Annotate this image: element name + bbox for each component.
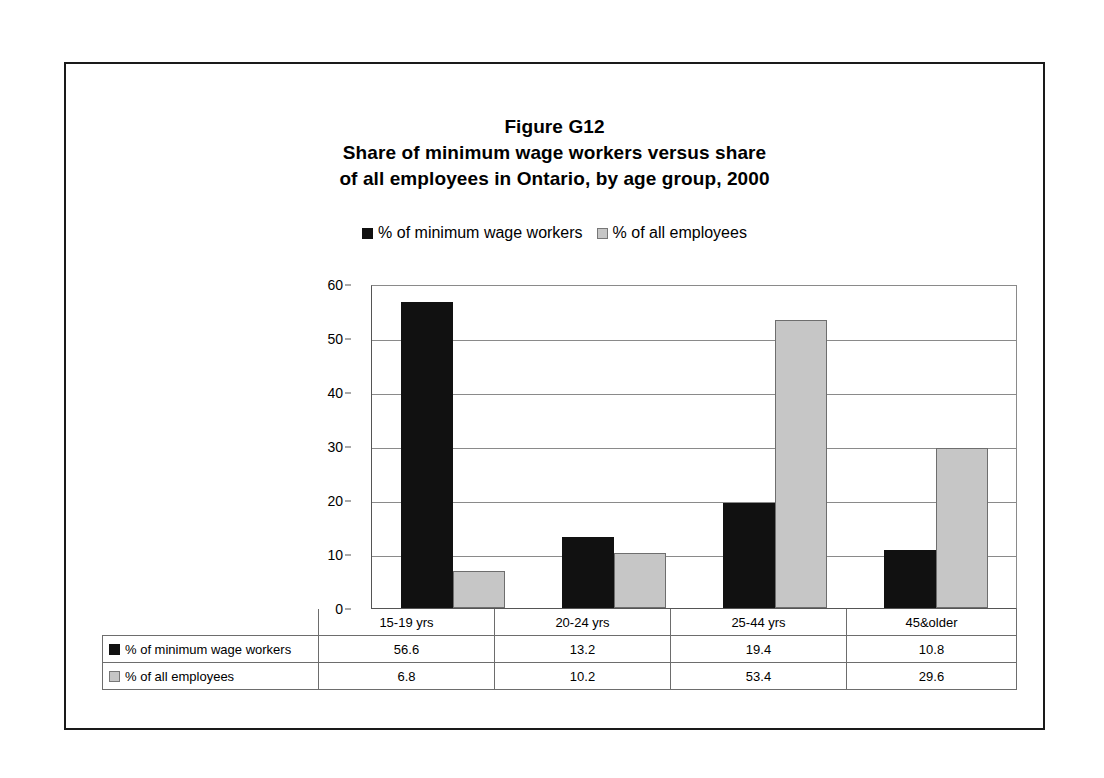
y-axis-tick-mark xyxy=(345,393,351,394)
table-cell: 56.6 xyxy=(319,636,495,663)
figure-title-line-1: Share of minimum wage workers versus sha… xyxy=(66,140,1043,166)
y-axis-tick-label: 30 xyxy=(327,439,343,455)
y-axis-tick-mark xyxy=(345,555,351,556)
table-cell: 19.4 xyxy=(671,636,847,663)
bar xyxy=(723,503,775,608)
legend-label-all-employees: % of all employees xyxy=(613,224,747,242)
table-header-row: 15-19 yrs20-24 yrs25-44 yrs45&older xyxy=(103,609,1017,636)
chart-plot-wrapper: 0102030405060 xyxy=(307,285,1017,611)
y-axis: 0102030405060 xyxy=(307,285,351,611)
y-axis-tick-mark xyxy=(345,339,351,340)
table-cell: 13.2 xyxy=(495,636,671,663)
y-axis-tick-label: 60 xyxy=(327,277,343,293)
bar xyxy=(562,537,614,608)
dark-square-swatch-icon xyxy=(362,228,373,239)
y-axis-tick-label: 10 xyxy=(327,547,343,563)
table-column-header: 20-24 yrs xyxy=(495,609,671,636)
y-axis-tick-label: 20 xyxy=(327,493,343,509)
table-row-label: % of all employees xyxy=(125,669,234,684)
figure-title-block: Figure G12 Share of minimum wage workers… xyxy=(66,114,1043,192)
bar xyxy=(775,320,827,608)
y-axis-tick-label: 50 xyxy=(327,331,343,347)
figure-title-line-2: of all employees in Ontario, by age grou… xyxy=(66,166,1043,192)
table-column-header: 45&older xyxy=(847,609,1017,636)
bar xyxy=(936,448,988,608)
chart-legend: % of minimum wage workers % of all emplo… xyxy=(66,224,1043,242)
table-column-header: 15-19 yrs xyxy=(319,609,495,636)
table-column-header: 25-44 yrs xyxy=(671,609,847,636)
bar xyxy=(453,571,505,608)
table-row: % of all employees6.810.253.429.6 xyxy=(103,663,1017,690)
bar xyxy=(614,553,666,608)
y-axis-tick-mark xyxy=(345,447,351,448)
dark-square-swatch-icon xyxy=(109,644,120,655)
table-row-header: % of all employees xyxy=(103,663,319,690)
bar-group xyxy=(372,286,533,608)
table-row-header: % of minimum wage workers xyxy=(103,636,319,663)
legend-entry-all-employees: % of all employees xyxy=(597,224,747,242)
table-corner-cell xyxy=(103,609,319,636)
bar xyxy=(401,302,453,608)
table-cell: 53.4 xyxy=(671,663,847,690)
table-row: % of minimum wage workers56.613.219.410.… xyxy=(103,636,1017,663)
bar-group xyxy=(533,286,694,608)
y-axis-tick-mark xyxy=(345,501,351,502)
light-square-swatch-icon xyxy=(597,228,608,239)
legend-entry-minimum-wage-workers: % of minimum wage workers xyxy=(362,224,583,242)
table-row-label: % of minimum wage workers xyxy=(125,642,291,657)
bar xyxy=(884,550,936,608)
figure-frame: Figure G12 Share of minimum wage workers… xyxy=(64,62,1045,730)
chart-data-table: 15-19 yrs20-24 yrs25-44 yrs45&older% of … xyxy=(102,609,1017,690)
y-axis-tick-label: 40 xyxy=(327,385,343,401)
figure-number: Figure G12 xyxy=(66,114,1043,140)
table-cell: 29.6 xyxy=(847,663,1017,690)
y-axis-tick-mark xyxy=(345,285,351,286)
bar-group xyxy=(694,286,855,608)
bar-group xyxy=(855,286,1016,608)
legend-label-minimum-wage-workers: % of minimum wage workers xyxy=(378,224,583,242)
light-square-swatch-icon xyxy=(109,671,120,682)
table-cell: 10.2 xyxy=(495,663,671,690)
table-cell: 10.8 xyxy=(847,636,1017,663)
plot-area xyxy=(371,285,1017,609)
bars-layer xyxy=(372,286,1016,608)
table-cell: 6.8 xyxy=(319,663,495,690)
